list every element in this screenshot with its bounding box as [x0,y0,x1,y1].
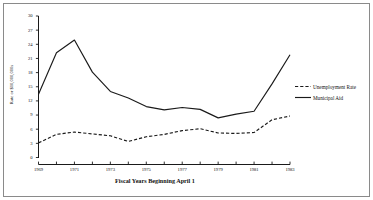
x-axis-tick-label: 1981 [242,167,266,172]
y-axis-tick-label: 21 [19,56,33,61]
y-axis-tick-label: 9 [19,112,33,117]
chart-figure: 036912151821242730 196919711973197519771… [0,0,373,200]
y-axis-tick-label: 3 [19,141,33,146]
series-line-municipal-aid [39,40,291,118]
x-axis-tick-label: 1973 [98,167,122,172]
x-axis-tick-label: 1975 [134,167,158,172]
y-axis-tick-label: 12 [19,98,33,103]
y-axis-tick-label: 6 [19,127,33,132]
legend-label-municipal-aid: Municipal Aid [313,95,343,101]
y-axis-tick-label: 18 [19,70,33,75]
y-axis-tick-label: 30 [19,13,33,18]
y-axis-title: Rate or $10,000,000s [9,57,14,113]
x-axis-tick-label: 1969 [27,167,51,172]
series-line-unemployment-rate [39,116,291,143]
y-axis-tick-label: 0 [19,155,33,160]
y-axis-tick-label: 27 [19,28,33,33]
legend-swatches [295,87,311,98]
x-axis-tick-label: 1977 [170,167,194,172]
x-axis-title: Fiscal Years Beginning April 1 [36,177,274,184]
legend-label-unemployment-rate: Unemployment Rate [313,84,356,90]
x-axis-tick-label: 1979 [206,167,230,172]
y-axis-tick-label: 15 [19,84,33,89]
axis-lines [39,16,291,165]
y-axis-tick-label: 24 [19,42,33,47]
x-axis-tick-label: 1971 [62,167,86,172]
x-axis-tick-label: 1983 [278,167,302,172]
